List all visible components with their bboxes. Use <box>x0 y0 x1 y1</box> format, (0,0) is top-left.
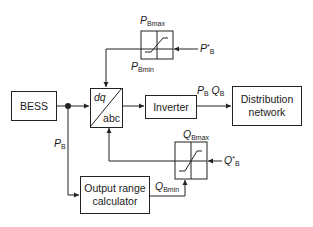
bess-label: BESS <box>20 100 48 113</box>
p-bmax-label: PBmax <box>140 14 165 26</box>
distribution-label-line1: Distribution <box>241 93 294 106</box>
distribution-network-block: Distribution network <box>232 86 302 126</box>
calculator-label-line2: calculator <box>93 195 138 208</box>
q-bmin-label: QBmin <box>155 180 179 192</box>
junction-dot <box>65 103 71 109</box>
inverter-block: Inverter <box>145 95 197 119</box>
p-b-label: PB <box>54 137 66 149</box>
q-ref-label: Q*B <box>224 154 240 166</box>
bess-block: BESS <box>11 91 57 121</box>
p-bmin-label: PBmin <box>131 60 154 72</box>
dq-abc-transform-block: dq abc <box>90 88 123 128</box>
output-range-calculator-block: Output range calculator <box>80 176 150 214</box>
distribution-label-line2: network <box>249 106 286 119</box>
inverter-label: Inverter <box>153 101 189 114</box>
p-ref-label: P*B <box>200 42 214 54</box>
output-pq-label: PB QB <box>197 84 224 96</box>
dq-label: dq <box>94 91 106 104</box>
abc-label: abc <box>103 112 120 125</box>
calculator-label-line1: Output range <box>84 182 145 195</box>
q-bmax-label: QBmax <box>183 128 209 140</box>
